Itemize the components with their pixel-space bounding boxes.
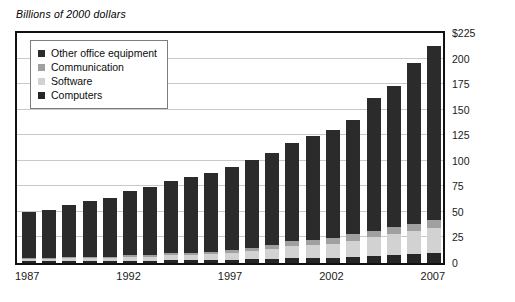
bar-segment: [204, 173, 218, 252]
bar-group[interactable]: [285, 143, 299, 263]
bar-segment: [285, 143, 299, 240]
bar-segment: [306, 245, 320, 258]
bar-segment: [42, 261, 56, 263]
bar-segment: [143, 187, 157, 254]
legend-item[interactable]: Computers: [38, 89, 157, 102]
bar-segment: [184, 260, 198, 263]
bar-group[interactable]: [306, 136, 320, 263]
bar-segment: [407, 224, 421, 231]
bar-segment: [387, 234, 401, 254]
bar-segment: [204, 260, 218, 263]
bar-group[interactable]: [407, 63, 421, 263]
bar-segment: [427, 220, 441, 228]
bar-segment: [387, 86, 401, 227]
bar-segment: [346, 257, 360, 263]
bar-group[interactable]: [367, 98, 381, 263]
bar-segment: [22, 212, 36, 258]
y-axis-tick-label: 125: [452, 129, 470, 141]
bar-segment: [265, 249, 279, 259]
bar-segment: [42, 210, 56, 258]
bar-segment: [83, 261, 97, 263]
y-axis-tick-label: 50: [452, 206, 464, 218]
bar-segment: [306, 258, 320, 263]
bar-segment: [346, 120, 360, 234]
bar-segment: [427, 253, 441, 263]
bar-segment: [225, 260, 239, 263]
bar-segment: [245, 259, 259, 263]
legend-item-label: Communication: [51, 62, 124, 73]
legend-item-label: Software: [51, 76, 92, 87]
y-axis-tick-label: 150: [452, 104, 470, 116]
bar-group[interactable]: [62, 205, 76, 263]
bar-segment: [164, 260, 178, 263]
bar-segment: [245, 251, 259, 259]
bar-segment: [103, 198, 117, 257]
bar-segment: [143, 261, 157, 263]
bar-group[interactable]: [225, 167, 239, 263]
legend-item[interactable]: Software: [38, 75, 157, 88]
bar-segment: [367, 237, 381, 255]
x-axis-tick-label: 1997: [218, 270, 242, 282]
bar-segment: [164, 181, 178, 253]
bar-group[interactable]: [103, 198, 117, 263]
legend-item-label: Other office equipment: [51, 48, 157, 59]
x-axis-tick-label: 1992: [116, 270, 140, 282]
chart-legend: Other office equipmentCommunicationSoftw…: [30, 40, 168, 109]
bar-segment: [326, 258, 340, 263]
legend-item[interactable]: Communication: [38, 61, 157, 74]
legend-swatch-icon: [38, 64, 45, 71]
bar-segment: [123, 261, 137, 263]
bar-group[interactable]: [143, 187, 157, 263]
bar-segment: [407, 254, 421, 263]
bar-segment: [83, 201, 97, 257]
legend-swatch-icon: [38, 50, 45, 57]
bar-segment: [407, 231, 421, 253]
bar-segment: [245, 160, 259, 248]
bar-group[interactable]: [427, 46, 441, 263]
bar-segment: [225, 253, 239, 260]
bar-segment: [427, 46, 441, 220]
bar-segment: [103, 261, 117, 263]
legend-swatch-icon: [38, 78, 45, 85]
bar-segment: [265, 153, 279, 245]
bar-segment: [285, 258, 299, 263]
bar-segment: [407, 63, 421, 225]
bar-segment: [22, 261, 36, 263]
x-axis-tick-label: 2007: [421, 270, 445, 282]
bar-group[interactable]: [387, 86, 401, 263]
legend-item-label: Computers: [51, 90, 102, 101]
bar-segment: [427, 228, 441, 253]
bar-group[interactable]: [204, 173, 218, 263]
bar-group[interactable]: [265, 153, 279, 263]
bar-group[interactable]: [42, 210, 56, 263]
chart-axis-title: Billions of 2000 dollars: [16, 8, 126, 20]
y-axis-tick-label: 75: [452, 180, 464, 192]
legend-swatch-icon: [38, 92, 45, 99]
bar-group[interactable]: [164, 181, 178, 263]
bar-group[interactable]: [245, 160, 259, 263]
bar-segment: [265, 259, 279, 263]
bar-group[interactable]: [326, 130, 340, 263]
y-axis-tick-label: 25: [452, 231, 464, 243]
legend-item[interactable]: Other office equipment: [38, 47, 157, 60]
bar-segment: [285, 246, 299, 258]
bar-segment: [326, 244, 340, 258]
bar-group[interactable]: [184, 177, 198, 263]
bar-segment: [346, 241, 360, 257]
bar-segment: [123, 191, 137, 254]
bar-group[interactable]: [83, 201, 97, 263]
y-axis-tick-label: 175: [452, 78, 470, 90]
y-axis-tick-label: 0: [452, 257, 458, 269]
bar-segment: [184, 177, 198, 253]
bar-group[interactable]: [123, 191, 137, 263]
bar-segment: [387, 255, 401, 263]
bar-group[interactable]: [346, 120, 360, 263]
bar-segment: [306, 136, 320, 239]
x-axis-tick-label: 2002: [319, 270, 343, 282]
bar-segment: [62, 205, 76, 257]
bar-group[interactable]: [22, 212, 36, 263]
chart-figure: Billions of 2000 dollars 025507510012515…: [0, 0, 515, 302]
y-axis-tick-label: 100: [452, 155, 470, 167]
bar-segment: [326, 130, 340, 238]
y-axis-tick-label: 200: [452, 53, 470, 65]
